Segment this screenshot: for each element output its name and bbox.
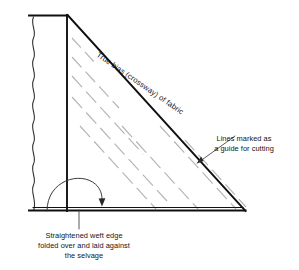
weft-edge-caption-line2: folded over and laid against xyxy=(38,241,130,250)
fabric-outline-group xyxy=(29,15,246,211)
weft-edge-caption-line3: the selvage xyxy=(65,251,103,260)
true-bias-edge xyxy=(68,15,246,211)
raw-wavy-fabric-edge xyxy=(32,17,34,210)
guide-lines-caption-line1: Lines marked as xyxy=(217,134,272,143)
guide-lines-caption-group: Lines marked as a guide for cutting xyxy=(214,134,274,153)
diagram-canvas: True bias (crossway) of fabric Lines mar… xyxy=(0,0,299,270)
weft-edge-caption-line1: Straightened weft edge xyxy=(45,231,122,240)
guide-line xyxy=(80,126,156,209)
rotation-arc-icon xyxy=(47,178,102,211)
weft-edge-caption-group: Straightened weft edge folded over and l… xyxy=(38,231,130,260)
guide-line xyxy=(122,126,198,209)
guide-lines-caption-line2: a guide for cutting xyxy=(214,144,274,153)
arrow-icon xyxy=(99,198,106,206)
true-bias-label: True bias (crossway) of fabric xyxy=(95,50,186,116)
true-bias-label-group: True bias (crossway) of fabric xyxy=(95,50,186,116)
guide-line xyxy=(72,97,167,201)
fold-direction-arc xyxy=(47,178,105,211)
fabric-bias-diagram: True bias (crossway) of fabric Lines mar… xyxy=(0,0,299,270)
